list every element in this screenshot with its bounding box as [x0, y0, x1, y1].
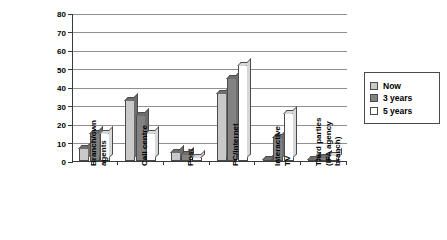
- y-axis-tick: [68, 32, 73, 33]
- bar-now: [217, 93, 227, 161]
- x-axis-tick: [254, 161, 255, 165]
- gridline: [73, 69, 347, 70]
- y-axis-tick: [68, 14, 73, 15]
- plot-area: 01020304050607080: [72, 14, 347, 162]
- x-axis-label-wrap: Call centre: [140, 166, 141, 167]
- y-axis-tick-label: 0: [42, 158, 66, 167]
- y-axis-tick-label: 50: [42, 65, 66, 74]
- y-axis-tick: [68, 162, 73, 163]
- x-axis-tick: [209, 161, 210, 165]
- y-axis-tick-label: 30: [42, 102, 66, 111]
- gridline: [73, 32, 347, 33]
- legend-item-3-years[interactable]: 3 years: [370, 93, 435, 103]
- y-axis-tick-label: 40: [42, 84, 66, 93]
- plot-inner: 01020304050607080: [73, 14, 347, 161]
- chart-figure: Percentage of customers 0102030405060708…: [0, 0, 447, 240]
- legend-swatch: [370, 94, 378, 102]
- y-axis-title: Percentage of customers: [2, 0, 32, 38]
- bar-side-face: [293, 106, 297, 158]
- x-axis-tick: [117, 161, 118, 165]
- x-axis-tick: [163, 161, 164, 165]
- x-axis-tick: [300, 161, 301, 165]
- legend-label: 5 years: [383, 106, 412, 116]
- y-axis-tick: [68, 125, 73, 126]
- legend-swatch: [370, 107, 378, 115]
- gridline: [73, 14, 347, 15]
- x-axis-tick: [346, 161, 347, 165]
- x-axis-label-wrap: Branch/own agents: [89, 166, 90, 167]
- x-axis-label: PC/Internet: [231, 92, 241, 166]
- x-axis-label-wrap: PC/Internet: [231, 166, 232, 167]
- y-axis-tick: [68, 51, 73, 52]
- legend-label: 3 years: [383, 93, 412, 103]
- y-axis-tick-label: 70: [42, 28, 66, 37]
- bar-side-face: [155, 126, 159, 158]
- x-axis-label-wrap: Third parties (IFA agency branch): [314, 166, 315, 167]
- y-axis-tick: [68, 88, 73, 89]
- y-axis-tick-label: 10: [42, 139, 66, 148]
- bar-side-face: [201, 150, 205, 158]
- legend-swatch: [370, 82, 378, 90]
- bar-now: [125, 100, 135, 161]
- legend-item-now[interactable]: Now: [370, 81, 435, 91]
- x-axis-label-wrap: Post: [186, 166, 187, 167]
- y-axis-tick: [68, 69, 73, 70]
- bar-side-face: [247, 58, 251, 158]
- y-axis-tick: [68, 106, 73, 107]
- gridline: [73, 51, 347, 52]
- gridline: [73, 143, 347, 144]
- bar-now: [263, 159, 273, 161]
- y-axis-tick-label: 60: [42, 47, 66, 56]
- x-axis-label: Interactive TV: [273, 92, 292, 166]
- bar-side-face: [109, 126, 113, 158]
- x-axis-label: Third parties (IFA agency branch): [314, 92, 343, 166]
- bar-now: [79, 148, 89, 161]
- gridline: [73, 106, 347, 107]
- x-axis-label: Call centre: [140, 92, 150, 166]
- bar-now: [171, 152, 181, 161]
- legend-label: Now: [383, 81, 401, 91]
- x-axis-label: Branch/own agents: [89, 92, 108, 166]
- legend: Now3 years5 years: [364, 72, 440, 124]
- y-axis-tick: [68, 143, 73, 144]
- gridline: [73, 88, 347, 89]
- y-axis-tick-label: 80: [42, 10, 66, 19]
- x-axis-label: Post: [186, 92, 196, 166]
- gridline: [73, 125, 347, 126]
- legend-item-5-years[interactable]: 5 years: [370, 106, 435, 116]
- x-axis-label-wrap: Interactive TV: [273, 166, 274, 167]
- y-axis-tick-label: 20: [42, 121, 66, 130]
